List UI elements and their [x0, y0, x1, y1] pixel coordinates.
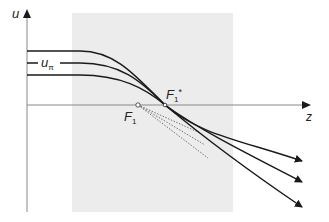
F1-star-label: F1*: [166, 88, 182, 104]
F1-label: F1: [124, 110, 136, 126]
z-axis-arrow-icon: [302, 101, 311, 109]
u-pi-label: uπ: [41, 56, 54, 72]
u-axis-label: u: [12, 7, 19, 20]
u-axis-arrow-icon: [23, 9, 31, 18]
shaded-region: [72, 13, 233, 212]
F1-point: [136, 103, 140, 107]
z-axis-label: z: [306, 111, 312, 123]
diagram-canvas: [0, 0, 329, 222]
